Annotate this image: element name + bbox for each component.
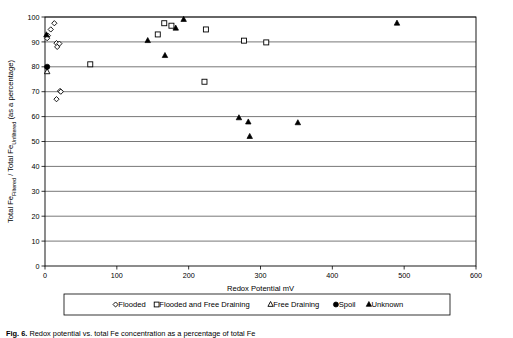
y-tick-label-60: 60 bbox=[32, 112, 40, 121]
y-axis-title: Total FeFiltered / Total FeUnfiltered (a… bbox=[6, 60, 17, 223]
y-tick-label-10: 10 bbox=[32, 237, 40, 246]
x-tick-label-200: 200 bbox=[183, 271, 195, 280]
y-tick-label-70: 70 bbox=[32, 87, 40, 96]
caption: Fig. 6. Redox potential vs. total Fe con… bbox=[6, 329, 255, 338]
series-unknown bbox=[44, 16, 400, 138]
legend-label-spoil: Spoil bbox=[339, 300, 356, 309]
x-tick-label-300: 300 bbox=[255, 271, 267, 280]
point-4-7 bbox=[247, 133, 253, 138]
chart-legend: FloodedFlooded and Free DrainingFree Dra… bbox=[64, 294, 450, 315]
point-1-2 bbox=[162, 21, 167, 26]
y-tick-label-0: 0 bbox=[36, 262, 40, 271]
scatter-chart: 0102030405060708090100 01002003004005006… bbox=[0, 0, 513, 338]
point-1-1 bbox=[155, 32, 160, 37]
y-axis-title-text: Total FeFiltered / Total FeUnfiltered (a… bbox=[6, 60, 17, 223]
x-tick-label-0: 0 bbox=[43, 271, 47, 280]
point-4-6 bbox=[246, 119, 252, 124]
x-tick-label-100: 100 bbox=[111, 271, 123, 280]
point-0-8 bbox=[54, 97, 59, 102]
point-4-4 bbox=[162, 52, 168, 57]
point-3-0 bbox=[45, 64, 50, 69]
point-1-0 bbox=[88, 62, 93, 67]
series-spoil bbox=[45, 64, 50, 69]
y-tick-label-50: 50 bbox=[32, 137, 40, 146]
y-tick-label-30: 30 bbox=[32, 187, 40, 196]
gridlines bbox=[45, 17, 476, 241]
point-4-1 bbox=[145, 38, 151, 43]
y-axis-ticks: 0102030405060708090100 bbox=[28, 13, 46, 271]
point-0-1 bbox=[48, 27, 53, 32]
y-tick-label-40: 40 bbox=[32, 162, 40, 171]
y-tick-label-100: 100 bbox=[28, 13, 40, 22]
point-0-2 bbox=[52, 21, 57, 26]
x-tick-label-400: 400 bbox=[326, 271, 338, 280]
figure-caption: Fig. 6. Redox potential vs. total Fe con… bbox=[6, 329, 255, 338]
point-4-5 bbox=[236, 115, 242, 120]
legend-label-flooded-and-free-draining: Flooded and Free Draining bbox=[159, 300, 249, 309]
y-tick-label-80: 80 bbox=[32, 62, 40, 71]
x-axis-ticks: 0100200300400500600 bbox=[43, 266, 482, 280]
legend-label-unknown: Unknown bbox=[372, 300, 404, 309]
point-1-3 bbox=[169, 23, 174, 28]
data-points bbox=[44, 16, 400, 138]
x-tick-label-500: 500 bbox=[398, 271, 410, 280]
y-tick-label-20: 20 bbox=[32, 212, 40, 221]
point-4-9 bbox=[394, 20, 400, 25]
legend-label-flooded: Flooded bbox=[118, 300, 145, 309]
x-axis-title: Redox Potential mV bbox=[227, 284, 295, 293]
legend-label-free-draining: Free Draining bbox=[273, 300, 319, 309]
point-1-4 bbox=[203, 27, 208, 32]
x-tick-label-600: 600 bbox=[470, 271, 482, 280]
point-1-6 bbox=[264, 40, 269, 45]
point-1-5 bbox=[241, 38, 246, 43]
y-tick-label-90: 90 bbox=[32, 38, 40, 47]
point-1-7 bbox=[202, 79, 207, 84]
figure-container: 0102030405060708090100 01002003004005006… bbox=[0, 0, 513, 338]
point-4-8 bbox=[295, 120, 301, 125]
legend-marker-flooded-and-free-draining bbox=[154, 302, 159, 307]
